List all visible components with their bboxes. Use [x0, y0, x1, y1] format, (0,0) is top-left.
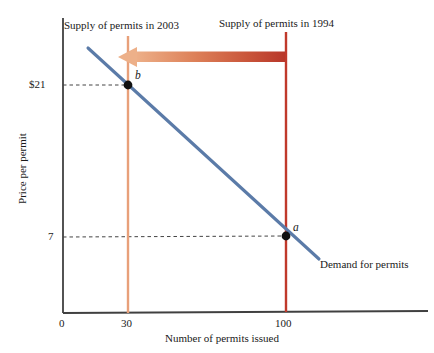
chart-canvas: [0, 0, 434, 353]
y-tick-label-7: 7: [48, 231, 54, 242]
annotation-supply-2003: Supply of permits in 2003: [64, 20, 179, 31]
annotation-supply-1994: Supply of permits in 1994: [219, 18, 334, 29]
annotation-demand: Demand for permits: [320, 259, 409, 270]
guideline-a: [63, 236, 286, 237]
x-axis: [63, 311, 428, 313]
demand-line: [88, 48, 319, 259]
x-axis-title: Number of permits issued: [112, 333, 332, 344]
x-tick-label-30: 30: [121, 318, 132, 329]
data-point-b: [124, 81, 133, 90]
supply-demand-chart: Supply of permits in 2003 Supply of perm…: [0, 0, 434, 353]
y-tick-label-21: $21: [29, 79, 46, 90]
shift-arrow-icon: [118, 47, 285, 67]
y-axis-title: Price per permit: [17, 114, 28, 224]
x-tick-label-0: 0: [59, 318, 65, 329]
data-point-label-b: b: [135, 70, 141, 82]
data-point-a: [282, 232, 291, 241]
x-tick-label-100: 100: [275, 318, 292, 329]
data-point-label-a: a: [293, 222, 299, 234]
